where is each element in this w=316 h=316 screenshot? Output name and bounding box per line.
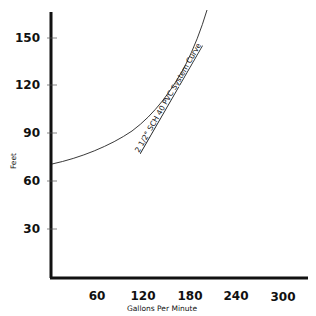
y-tick-label: 150 — [15, 31, 40, 45]
curve-label: 2 1/2" SCH 40 PVC System Curve — [133, 41, 203, 154]
y-tick-label: 60 — [23, 174, 40, 188]
y-tick-label: 120 — [15, 78, 40, 92]
x-tick-label: 60 — [89, 289, 106, 303]
x-tick-label: 180 — [177, 289, 202, 303]
chart: 150 120 90 60 30 60 120 180 240 300 Gall… — [0, 0, 316, 316]
x-axis-label: Gallons Per Minute — [127, 304, 198, 313]
system-curve-line — [52, 10, 207, 164]
x-tick-label: 300 — [270, 290, 295, 304]
y-axis-label: Feet — [9, 153, 18, 169]
x-tick-label: 240 — [223, 289, 248, 303]
y-tick-label: 90 — [23, 126, 40, 140]
x-tick-label: 120 — [130, 289, 155, 303]
y-tick-label: 30 — [23, 222, 40, 236]
